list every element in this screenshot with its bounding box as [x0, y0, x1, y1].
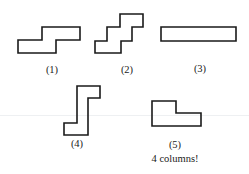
shape-4-vertical-s	[64, 86, 100, 135]
shape-2-staircase	[95, 14, 143, 53]
shape-1-s-tetromino	[18, 27, 80, 53]
polyomino-diagram	[0, 0, 249, 174]
shape-3-label: (3)	[194, 64, 206, 75]
shape-5-label: (5)	[169, 140, 181, 151]
shape-1-label: (1)	[46, 65, 58, 76]
caption-text: 4 columns!	[152, 154, 199, 165]
shape-2-label: (2)	[121, 65, 133, 76]
shape-5-l-shape	[152, 101, 201, 126]
shape-3-bar	[161, 27, 236, 41]
shape-4-label: (4)	[71, 139, 83, 150]
